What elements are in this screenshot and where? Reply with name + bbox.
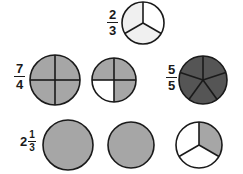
fraction-circle-5-5 xyxy=(176,53,230,107)
fraction-circle-three-fourths xyxy=(89,55,139,105)
fraction-circle-whole-a xyxy=(40,117,96,173)
label-five-fifths-denominator: 5 xyxy=(166,78,177,92)
fraction-circle-one-third-svg xyxy=(173,119,225,171)
label-two-thirds-denominator: 3 xyxy=(107,23,118,37)
label-five-fifths-numerator: 5 xyxy=(166,63,177,78)
fraction-circle-four-fourths-full-svg xyxy=(27,52,83,108)
label-seven-fourths: 74 xyxy=(14,62,25,91)
fraction-circle-four-fourths-full xyxy=(27,52,83,108)
fraction-circle-one-third xyxy=(173,119,225,171)
label-two-and-one-third: 213 xyxy=(20,130,36,153)
fraction-circle-whole-a-segment-0 xyxy=(43,120,93,170)
label-seven-fourths-numerator: 7 xyxy=(14,62,25,77)
fraction-circle-whole-b-segment-0 xyxy=(108,122,154,168)
fraction-circle-2-3-svg xyxy=(119,0,167,47)
fraction-circle-whole-a-svg xyxy=(40,117,96,173)
label-five-fifths: 55 xyxy=(166,63,177,92)
label-seven-fourths-denominator: 4 xyxy=(14,77,25,91)
fraction-circle-2-3 xyxy=(119,0,167,47)
fraction-circle-whole-b-svg xyxy=(105,119,157,171)
fraction-circle-5-5-svg xyxy=(176,53,230,107)
fraction-circle-three-fourths-svg xyxy=(89,55,139,105)
fraction-circle-whole-b xyxy=(105,119,157,171)
label-two-and-one-third-numerator: 1 xyxy=(28,130,36,142)
label-two-and-one-third-denominator: 3 xyxy=(28,142,36,153)
label-two-thirds-numerator: 2 xyxy=(107,8,118,23)
fraction-models-worksheet: 237455213 xyxy=(0,0,243,174)
label-two-thirds: 23 xyxy=(107,8,118,37)
label-two-and-one-third-fraction-part: 13 xyxy=(28,130,36,153)
label-two-and-one-third-whole: 2 xyxy=(20,134,27,149)
